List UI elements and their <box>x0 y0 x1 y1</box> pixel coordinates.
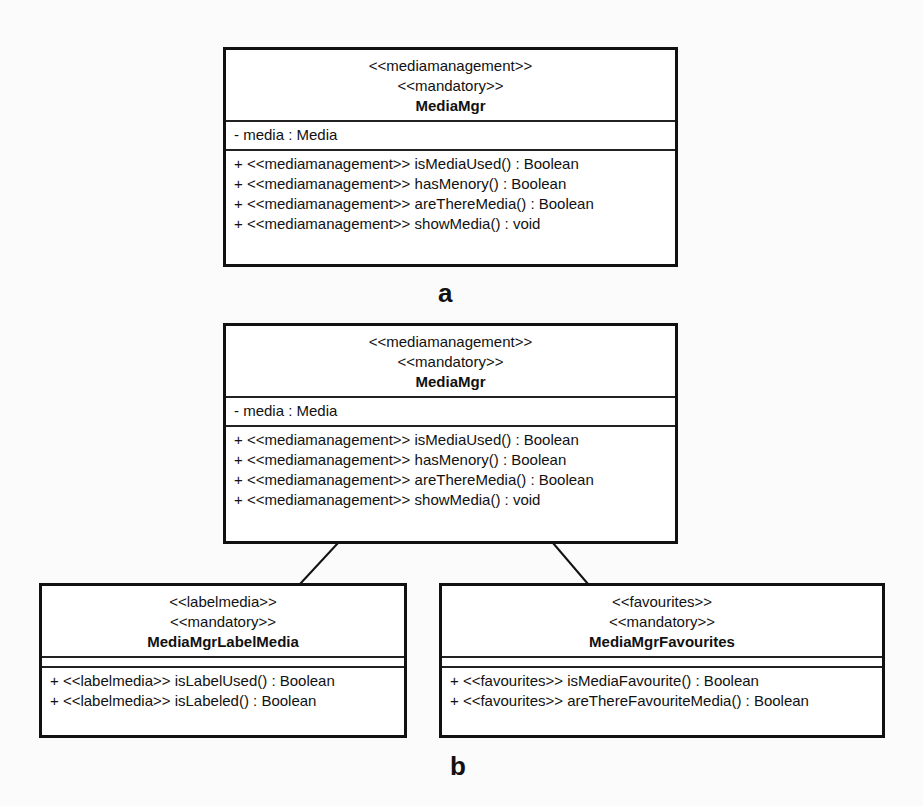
class-name: MediaMgr <box>234 96 667 116</box>
operation: + <<mediamanagement>> showMedia() : void <box>234 490 667 510</box>
class-header: <<favourites>> <<mandatory>> MediaMgrFav… <box>442 586 882 656</box>
operation: + <<mediamanagement>> hasMenory() : Bool… <box>234 174 667 194</box>
class-mediamgr-b[interactable]: <<mediamanagement>> <<mandatory>> MediaM… <box>223 323 678 544</box>
operation: + <<favourites>> isMediaFavourite() : Bo… <box>450 671 874 691</box>
operation: + <<favourites>> areThereFavouriteMedia(… <box>450 691 874 711</box>
stereotype: <<mandatory>> <box>234 352 667 372</box>
attributes-compartment: - media : Media <box>226 120 675 149</box>
stereotype: <<labelmedia>> <box>50 592 396 612</box>
attributes-compartment <box>442 656 882 666</box>
class-mediamgr-a[interactable]: <<mediamanagement>> <<mandatory>> MediaM… <box>223 47 678 267</box>
stereotype: <<mandatory>> <box>450 612 874 632</box>
stereotype: <<mandatory>> <box>234 76 667 96</box>
stereotype: <<mediamanagement>> <box>234 332 667 352</box>
class-header: <<labelmedia>> <<mandatory>> MediaMgrLab… <box>42 586 404 656</box>
class-name: MediaMgrLabelMedia <box>50 632 396 652</box>
class-mediamgr-favourites[interactable]: <<favourites>> <<mandatory>> MediaMgrFav… <box>439 583 885 738</box>
stereotype: <<mediamanagement>> <box>234 56 667 76</box>
operation: + <<mediamanagement>> showMedia() : void <box>234 214 667 234</box>
class-name: MediaMgr <box>234 372 667 392</box>
class-mediamgr-labelmedia[interactable]: <<labelmedia>> <<mandatory>> MediaMgrLab… <box>39 583 407 738</box>
operations-compartment: + <<labelmedia>> isLabelUsed() : Boolean… <box>42 666 404 715</box>
operation: + <<mediamanagement>> isMediaUsed() : Bo… <box>234 430 667 450</box>
association-line-labelmedia <box>300 543 338 584</box>
operation: + <<labelmedia>> isLabeled() : Boolean <box>50 691 396 711</box>
operations-compartment: + <<favourites>> isMediaFavourite() : Bo… <box>442 666 882 715</box>
class-name: MediaMgrFavourites <box>450 632 874 652</box>
operation: + <<mediamanagement>> isMediaUsed() : Bo… <box>234 154 667 174</box>
attribute: - media : Media <box>234 125 667 145</box>
figure-label-a: a <box>438 280 452 306</box>
attribute: - media : Media <box>234 401 667 421</box>
operation: + <<mediamanagement>> areThereMedia() : … <box>234 194 667 214</box>
operation: + <<labelmedia>> isLabelUsed() : Boolean <box>50 671 396 691</box>
class-header: <<mediamanagement>> <<mandatory>> MediaM… <box>226 50 675 120</box>
operation: + <<mediamanagement>> areThereMedia() : … <box>234 470 667 490</box>
stereotype: <<mandatory>> <box>50 612 396 632</box>
operations-compartment: + <<mediamanagement>> isMediaUsed() : Bo… <box>226 149 675 238</box>
figure-label-b: b <box>450 753 466 779</box>
attributes-compartment <box>42 656 404 666</box>
association-line-favourites <box>553 543 588 584</box>
operation: + <<mediamanagement>> hasMenory() : Bool… <box>234 450 667 470</box>
attributes-compartment: - media : Media <box>226 396 675 425</box>
stereotype: <<favourites>> <box>450 592 874 612</box>
class-header: <<mediamanagement>> <<mandatory>> MediaM… <box>226 326 675 396</box>
operations-compartment: + <<mediamanagement>> isMediaUsed() : Bo… <box>226 425 675 514</box>
